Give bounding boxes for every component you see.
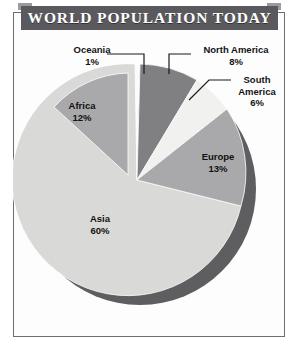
slice-label-south-america: South America 6% [226,74,288,109]
slice-label-south-america-name: South [226,74,288,86]
slice-label-asia-name: Asia [72,213,128,225]
slice-label-africa-name: Africa [54,100,110,112]
slice-label-europe-value: 13% [190,163,246,175]
slice-label-africa-value: 12% [54,112,110,124]
slice-label-oceania: Oceania 1% [62,44,122,67]
chart-figure: WORLD POPULATION TODAY Oceania 1% North … [0,0,299,352]
slice-label-north-america-name: North America [188,44,284,56]
slice-label-asia-value: 60% [72,225,128,237]
slice-label-north-america: North America 8% [188,44,284,67]
slice-label-north-america-value: 8% [188,56,284,68]
slice-label-south-america-value: 6% [226,97,288,109]
slice-label-europe: Europe 13% [190,151,246,174]
slice-label-south-america-name2: America [226,86,288,98]
slice-label-europe-name: Europe [190,151,246,163]
slice-label-asia: Asia 60% [72,213,128,236]
slice-label-oceania-value: 1% [62,56,122,68]
slice-label-oceania-name: Oceania [62,44,122,56]
slice-label-africa: Africa 12% [54,100,110,123]
